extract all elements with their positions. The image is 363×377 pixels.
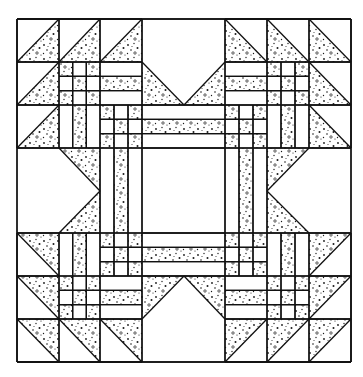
border-strip xyxy=(100,276,142,290)
border-strip xyxy=(59,233,73,276)
border-strip xyxy=(59,105,73,148)
border-strip xyxy=(225,76,267,90)
nine-patch-square xyxy=(239,105,253,119)
nine-patch-square xyxy=(73,76,87,90)
nine-patch-square xyxy=(114,134,128,148)
nine-patch-square xyxy=(239,134,253,148)
nine-patch-square xyxy=(114,105,128,119)
nine-patch-square xyxy=(225,262,239,276)
nine-patch-square xyxy=(86,76,100,90)
nine-patch-square xyxy=(114,247,128,261)
nine-patch-square xyxy=(295,305,309,319)
nine-patch-square xyxy=(59,62,73,76)
border-strip xyxy=(281,105,295,148)
nine-patch-square xyxy=(128,105,142,119)
border-strip xyxy=(100,62,142,76)
nine-patch-square xyxy=(128,233,142,247)
nine-patch-square xyxy=(295,91,309,105)
nine-patch-square xyxy=(128,119,142,133)
nine-patch-square xyxy=(73,290,87,304)
nine-patch-square xyxy=(59,76,73,90)
nine-patch-square xyxy=(225,119,239,133)
border-strip xyxy=(73,105,87,148)
nine-patch-square xyxy=(253,247,267,261)
nine-patch-square xyxy=(128,262,142,276)
nine-patch-square xyxy=(253,105,267,119)
nine-patch-square xyxy=(225,233,239,247)
nine-patch-square xyxy=(253,134,267,148)
nine-patch-square xyxy=(86,62,100,76)
nine-patch-square xyxy=(239,247,253,261)
border-strip xyxy=(225,91,267,105)
nine-patch-square xyxy=(59,91,73,105)
border-strip xyxy=(100,290,142,304)
nine-patch-square xyxy=(253,119,267,133)
nine-patch-square xyxy=(128,247,142,261)
nine-patch-square xyxy=(295,62,309,76)
nine-patch-square xyxy=(267,76,281,90)
border-strip xyxy=(267,105,281,148)
nine-patch-square xyxy=(100,247,114,261)
border-strip xyxy=(100,91,142,105)
nine-patch-square xyxy=(267,276,281,290)
border-strip xyxy=(142,262,225,276)
nine-patch-square xyxy=(100,105,114,119)
nine-patch-square xyxy=(253,233,267,247)
nine-patch-square xyxy=(86,276,100,290)
nine-patch-square xyxy=(100,233,114,247)
nine-patch-square xyxy=(86,290,100,304)
nine-patch-square xyxy=(281,76,295,90)
nine-patch-square xyxy=(100,134,114,148)
nine-patch-square xyxy=(86,305,100,319)
border-strip xyxy=(281,233,295,276)
nine-patch-square xyxy=(128,134,142,148)
nine-patch-square xyxy=(73,305,87,319)
nine-patch-square xyxy=(100,262,114,276)
nine-patch-square xyxy=(59,290,73,304)
border-strip xyxy=(114,148,128,233)
border-strip xyxy=(267,233,281,276)
nine-patch-square xyxy=(281,91,295,105)
nine-patch-square xyxy=(253,262,267,276)
nine-patch-square xyxy=(100,119,114,133)
nine-patch-square xyxy=(239,119,253,133)
nine-patch-square xyxy=(281,62,295,76)
quilt-block-diagram xyxy=(0,0,363,377)
border-strip xyxy=(128,148,142,233)
border-strip xyxy=(100,305,142,319)
nine-patch-square xyxy=(295,276,309,290)
border-strip xyxy=(142,134,225,148)
nine-patch-square xyxy=(239,233,253,247)
border-strip xyxy=(225,305,267,319)
border-strip xyxy=(86,233,100,276)
nine-patch-square xyxy=(225,134,239,148)
nine-patch-square xyxy=(295,76,309,90)
nine-patch-square xyxy=(73,62,87,76)
border-strip xyxy=(100,148,114,233)
nine-patch-square xyxy=(239,262,253,276)
border-strip xyxy=(225,62,267,76)
nine-patch-square xyxy=(295,290,309,304)
nine-patch-square xyxy=(281,290,295,304)
border-strip xyxy=(225,290,267,304)
nine-patch-square xyxy=(59,276,73,290)
nine-patch-square xyxy=(267,62,281,76)
nine-patch-square xyxy=(281,276,295,290)
nine-patch-square xyxy=(114,262,128,276)
border-strip xyxy=(100,76,142,90)
border-strip xyxy=(142,105,225,119)
border-strip xyxy=(253,148,267,233)
nine-patch-square xyxy=(73,276,87,290)
nine-patch-square xyxy=(114,233,128,247)
border-strip xyxy=(142,233,225,247)
nine-patch-square xyxy=(267,91,281,105)
border-strip xyxy=(295,105,309,148)
border-strip xyxy=(142,119,225,133)
center-square xyxy=(142,148,225,233)
nine-patch-square xyxy=(59,305,73,319)
border-strip xyxy=(239,148,253,233)
nine-patch-square xyxy=(267,290,281,304)
border-strip xyxy=(142,247,225,261)
fabric-fills xyxy=(17,19,351,362)
border-strip xyxy=(73,233,87,276)
